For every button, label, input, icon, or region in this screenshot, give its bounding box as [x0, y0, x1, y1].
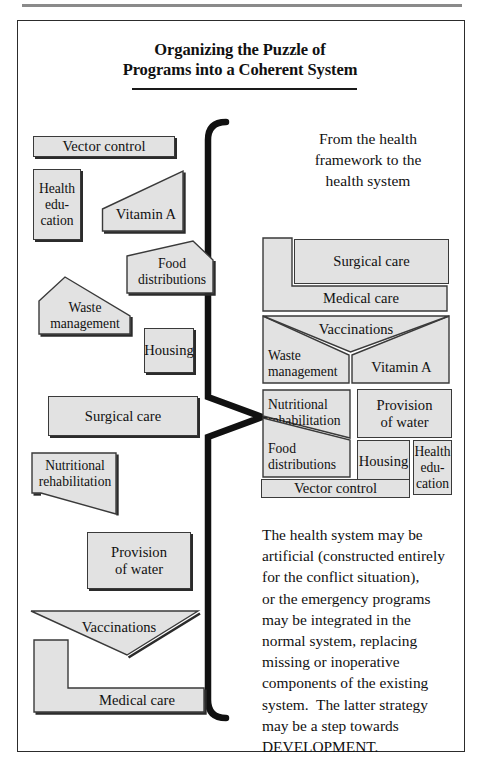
body-line: may be integrated in the: [262, 609, 458, 630]
assembled-surgical-care[interactable]: Surgical care: [294, 239, 449, 284]
piece-nutritional-rehabilitation[interactable]: Nutritional rehabilitation: [28, 448, 126, 520]
piece-surgical-care[interactable]: Surgical care: [48, 396, 198, 436]
piece-food-distributions[interactable]: Food distributions: [123, 238, 221, 298]
piece-label-line-2: of water: [115, 561, 163, 578]
body-line: for the conflict situation),: [262, 566, 458, 587]
assembled-label-line-1: Health: [414, 444, 450, 460]
assembled-label-line-3: cation: [416, 476, 449, 492]
piece-label: Housing: [144, 342, 193, 359]
piece-label-line-1: Provision: [111, 544, 167, 561]
page-title: Organizing the Puzzle of Programs into a…: [60, 40, 420, 80]
assembled-label-line-1: Provision: [377, 397, 433, 414]
top-rule: [22, 4, 462, 7]
piece-label: Vector control: [62, 138, 145, 155]
body-line: The health system may be: [262, 524, 458, 545]
piece-label: Surgical care: [85, 408, 161, 425]
assembled-vector-control[interactable]: Vector control: [261, 479, 410, 498]
title-underline: [132, 88, 357, 90]
body-line: normal system, replacing: [262, 630, 458, 651]
body-paragraph: The health system may be artificial (con…: [262, 524, 458, 757]
diagram-canvas: Organizing the Puzzle of Programs into a…: [0, 0, 482, 772]
piece-waste-management[interactable]: Waste management: [35, 274, 137, 340]
caption-line-3: health system: [288, 170, 448, 191]
body-line: system. The latter strategy: [262, 694, 458, 715]
piece-label-line-1: Health: [39, 181, 75, 197]
body-line: or the emergency programs: [262, 588, 458, 609]
piece-vector-control[interactable]: Vector control: [33, 136, 175, 157]
framework-caption: From the health framework to the health …: [288, 128, 448, 191]
assembled-health-education[interactable]: Health edu- cation: [413, 440, 452, 495]
assembled-label: Vector control: [294, 480, 377, 497]
piece-label-line-2: edu-: [45, 197, 69, 213]
caption-line-2: framework to the: [288, 149, 448, 170]
title-line-2: Programs into a Coherent System: [60, 60, 420, 80]
body-line: artificial (constructed entirely: [262, 545, 458, 566]
assembled-label-line-2: edu-: [420, 460, 444, 476]
assembled-food-distributions[interactable]: Food distributions: [261, 416, 355, 480]
caption-line-1: From the health: [288, 128, 448, 149]
piece-vitamin-a[interactable]: Vitamin A: [98, 168, 190, 236]
piece-health-education[interactable]: Health edu- cation: [33, 169, 81, 240]
body-line: components of the existing: [262, 672, 458, 693]
assembled-housing[interactable]: Housing: [357, 440, 410, 482]
piece-medical-care[interactable]: Medical care: [30, 636, 212, 718]
title-line-1: Organizing the Puzzle of: [60, 40, 420, 60]
assembled-label: Surgical care: [333, 253, 409, 270]
body-line: may be a step towards: [262, 715, 458, 736]
assembled-provision-of-water[interactable]: Provision of water: [357, 389, 452, 438]
body-line: DEVELOPMENT.: [262, 736, 458, 757]
piece-provision-of-water[interactable]: Provision of water: [87, 532, 191, 589]
assembled-label: Housing: [359, 453, 408, 470]
piece-housing[interactable]: Housing: [144, 328, 194, 373]
body-line: missing or inoperative: [262, 651, 458, 672]
assembled-label-line-2: of water: [380, 414, 428, 431]
assembled-vaccination-row: Vaccinations Waste management Vitamin A: [261, 314, 453, 386]
piece-label-line-3: cation: [40, 213, 73, 229]
